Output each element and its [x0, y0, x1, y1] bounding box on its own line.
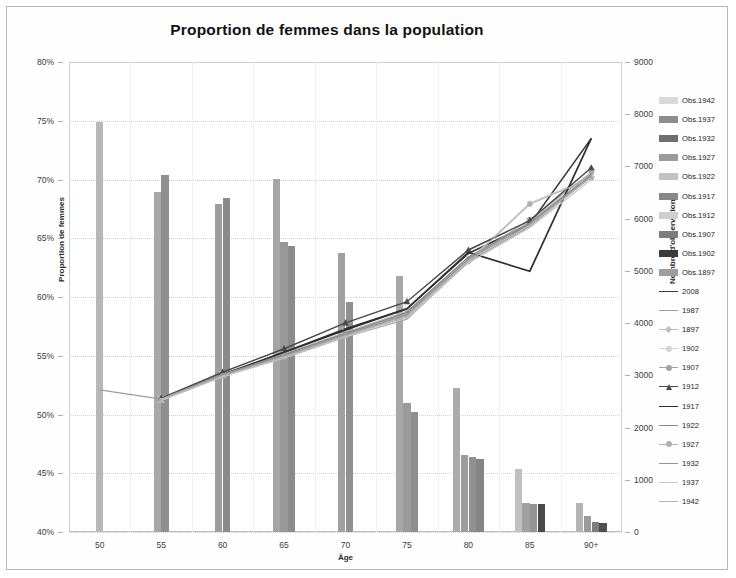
line-marker-circle: [589, 170, 594, 175]
line-series: [161, 168, 591, 398]
line-marker-circle: [527, 202, 532, 207]
legend-item-line[interactable]: 1922: [659, 416, 736, 435]
legend-item-bar[interactable]: Obs.1907: [659, 225, 736, 244]
legend-label: 1917: [682, 402, 699, 411]
legend-item-bar[interactable]: Obs.1902: [659, 244, 736, 263]
x-axis-tick: 60: [218, 540, 227, 550]
legend-marker-triangle: [666, 384, 672, 390]
legend-item-line[interactable]: 1927: [659, 435, 736, 454]
legend-label: Obs.1932: [682, 134, 715, 143]
legend-item-line[interactable]: 1932: [659, 454, 736, 473]
y-axis-right-tick: 3000: [634, 370, 653, 380]
legend-swatch: [659, 154, 678, 161]
legend-line-sample: [659, 497, 678, 506]
y-axis-right-tick: 7000: [634, 161, 653, 171]
x-axis-tick: 50: [95, 540, 104, 550]
x-axis-tick: 80: [464, 540, 473, 550]
y-axis-right-tick: 0: [634, 527, 639, 537]
legend-label: Obs.1912: [682, 211, 715, 220]
legend-item-line[interactable]: 1912: [659, 377, 736, 396]
legend-item-line[interactable]: 1897: [659, 320, 736, 339]
y-axis-right-tickmark: [625, 532, 630, 533]
legend-swatch: [659, 269, 678, 276]
legend-item-bar[interactable]: Obs.1897: [659, 263, 736, 282]
y-axis-left-tick: 40%: [37, 527, 54, 537]
y-axis-left-tick: 70%: [37, 175, 54, 185]
legend-swatch: [659, 173, 678, 180]
line-series: [161, 180, 591, 401]
line-series: [161, 176, 591, 399]
legend-item-bar[interactable]: Obs.1927: [659, 148, 736, 167]
legend-item-line[interactable]: 1937: [659, 473, 736, 492]
legend-label: Obs.1937: [682, 115, 715, 124]
legend-label: Obs.1922: [682, 172, 715, 181]
legend-swatch: [659, 250, 678, 257]
legend-swatch: [659, 135, 678, 142]
y-axis-right-tick: 1000: [634, 475, 653, 485]
y-axis-left-tick: 80%: [37, 57, 54, 67]
legend-label: 1912: [682, 382, 699, 391]
legend-item-bar[interactable]: Obs.1912: [659, 206, 736, 225]
y-axis-left-label: Proportion de femmes: [57, 180, 66, 300]
line-series: [161, 177, 591, 400]
y-axis-right-tickmark: [625, 428, 630, 429]
y-axis-left: 40%45%50%55%60%65%70%75%80%: [7, 62, 63, 532]
legend-label: Obs.1907: [682, 230, 715, 239]
legend-line-sample: [659, 459, 678, 468]
legend-item-bar[interactable]: Obs.1942: [659, 91, 736, 110]
legend-line-sample: [659, 306, 678, 315]
x-axis-tick: 70: [341, 540, 350, 550]
legend-label: 1927: [682, 440, 699, 449]
line-series: [161, 175, 591, 399]
chart-legend: Obs.1942Obs.1937Obs.1932Obs.1927Obs.1922…: [659, 91, 736, 511]
legend-item-bar[interactable]: Obs.1937: [659, 110, 736, 129]
y-axis-right-tickmark: [625, 375, 630, 376]
y-axis-right-tick: 6000: [634, 214, 653, 224]
y-axis-right-tickmark: [625, 114, 630, 115]
y-axis-left-tick: 75%: [37, 116, 54, 126]
legend-item-line[interactable]: 1987: [659, 301, 736, 320]
y-axis-right-tick: 8000: [634, 109, 653, 119]
y-axis-left-tick: 50%: [37, 410, 54, 420]
y-axis-left-tick: 45%: [37, 468, 54, 478]
legend-line-sample: [659, 287, 678, 296]
line-marker-triangle: [588, 164, 595, 170]
legend-label: Obs.1897: [682, 268, 715, 277]
y-axis-left-tickmark: [58, 473, 63, 474]
plot-area: [69, 62, 622, 532]
line-layer: [69, 62, 622, 532]
y-axis-right-tick: 9000: [634, 57, 653, 67]
x-axis: 505560657075808590+: [69, 534, 622, 554]
legend-item-line[interactable]: 1907: [659, 358, 736, 377]
x-axis-tick: 55: [156, 540, 165, 550]
legend-marker-circle: [666, 346, 672, 352]
y-axis-right-tickmark: [625, 219, 630, 220]
legend-item-bar[interactable]: Obs.1917: [659, 186, 736, 205]
legend-label: 2008: [682, 287, 699, 296]
legend-item-line[interactable]: 1942: [659, 492, 736, 511]
line-series: [161, 178, 591, 400]
y-axis-left-tickmark: [58, 532, 63, 533]
legend-swatch: [659, 116, 678, 123]
x-axis-tick: 85: [525, 540, 534, 550]
legend-swatch: [659, 193, 678, 200]
legend-label: 1932: [682, 459, 699, 468]
legend-label: 1902: [682, 344, 699, 353]
legend-item-line[interactable]: 2008: [659, 282, 736, 301]
gridline-h: [69, 532, 622, 533]
legend-item-bar[interactable]: Obs.1922: [659, 167, 736, 186]
legend-item-line[interactable]: 1917: [659, 397, 736, 416]
legend-line-sample: [659, 402, 678, 411]
legend-swatch: [659, 231, 678, 238]
legend-line-sample: [659, 325, 678, 334]
y-axis-right-tickmark: [625, 62, 630, 63]
legend-marker-circle: [666, 441, 672, 447]
legend-item-line[interactable]: 1902: [659, 339, 736, 358]
legend-label: 1922: [682, 421, 699, 430]
legend-swatch: [659, 97, 678, 104]
legend-item-bar[interactable]: Obs.1932: [659, 129, 736, 148]
x-axis-tick: 65: [279, 540, 288, 550]
legend-line-sample: [659, 382, 678, 391]
y-axis-left-tickmark: [58, 356, 63, 357]
y-axis-left-tickmark: [58, 121, 63, 122]
